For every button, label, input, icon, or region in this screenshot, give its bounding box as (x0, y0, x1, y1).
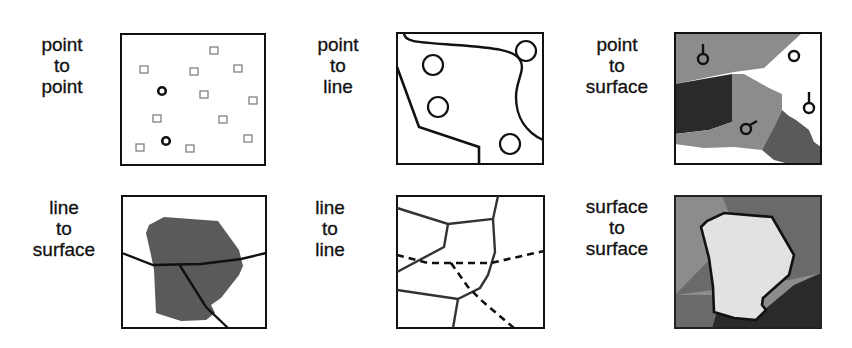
label-line-to-surface: line to surface (22, 197, 106, 260)
label-line-to-line: line to line (298, 197, 362, 260)
line-to-surface-map (121, 195, 268, 330)
square-point-icon (234, 65, 242, 72)
point-to-line-map (396, 32, 545, 166)
label-line: to (298, 55, 378, 76)
label-line: point (298, 34, 378, 55)
panel-point-to-line (396, 32, 545, 166)
surface-to-surface-map (674, 195, 823, 330)
label-surface-to-surface: surface to surface (572, 196, 662, 259)
square-point-icon (153, 115, 161, 122)
panel-point-to-surface (674, 32, 823, 166)
label-line: to (22, 218, 106, 239)
label-line: line (298, 197, 362, 218)
label-line: point (22, 76, 102, 97)
label-line: surface (572, 76, 662, 97)
square-point-icon (249, 97, 257, 104)
square-point-icon (210, 47, 218, 54)
label-line: line (298, 76, 378, 97)
label-line: surface (22, 239, 106, 260)
label-line: surface (572, 196, 662, 217)
square-point-icon (190, 68, 198, 75)
label-point-to-point: point to point (22, 34, 102, 97)
label-line: line (22, 197, 106, 218)
label-line: to (572, 55, 662, 76)
square-point-icon (186, 145, 194, 152)
label-point-to-line: point to line (298, 34, 378, 97)
panel-line-to-line (396, 195, 546, 330)
label-line: to (572, 217, 662, 238)
panel-point-to-point (120, 33, 267, 167)
label-point-to-surface: point to surface (572, 34, 662, 97)
line-to-line-map (396, 195, 546, 330)
label-line: surface (572, 238, 662, 259)
label-line: line (298, 239, 362, 260)
square-point-icon (244, 135, 252, 142)
label-line: to (298, 218, 362, 239)
label-line: to (22, 55, 102, 76)
panel-surface-to-surface (674, 195, 823, 330)
panel-line-to-surface (121, 195, 268, 330)
square-point-icon (136, 144, 144, 151)
point-to-surface-map (674, 32, 823, 166)
square-point-icon (200, 91, 208, 98)
square-point-icon (219, 116, 227, 123)
label-line: point (22, 34, 102, 55)
square-point-icon (140, 66, 148, 73)
label-line: point (572, 34, 662, 55)
point-to-point-map (120, 33, 267, 167)
